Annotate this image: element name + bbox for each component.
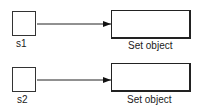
target-box-1 [111, 10, 191, 39]
target-label-1: Set object [128, 41, 172, 51]
source-label-s2: s2 [17, 95, 28, 105]
target-label-2: Set object [127, 95, 171, 105]
source-box-s1 [12, 11, 36, 36]
source-label-s1: s1 [16, 39, 27, 49]
source-box-s2 [12, 67, 36, 92]
target-box-2 [111, 63, 191, 92]
